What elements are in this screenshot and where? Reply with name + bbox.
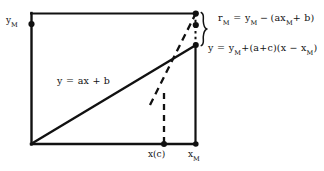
residual-equation-close: + b) <box>293 12 315 23</box>
residual-equation-label: rM=yM−(axM+ b) <box>218 13 314 25</box>
residual-equation-open: (ax <box>271 12 286 23</box>
fit-line-equation-rhs: ax + b <box>78 75 110 86</box>
fit-line-equation-lhs: y <box>57 75 63 86</box>
residual-equation-minus: − <box>260 12 268 23</box>
axis-frame <box>31 13 197 145</box>
diagram-canvas <box>0 0 324 171</box>
tilted-equation-term-subscript: M <box>306 49 313 57</box>
tilted-equation-term: (x − x <box>277 42 307 53</box>
fit-line-equation-operator: = <box>66 75 74 86</box>
residual-equation-operator: = <box>233 12 241 23</box>
y-axis-label-subscript: M <box>11 21 18 29</box>
residual-equation-r-subscript: M <box>223 19 230 27</box>
tilted-line-equation-label: y=yM+(a+c)(x − xM) <box>208 43 317 55</box>
residual-brace <box>201 13 206 46</box>
dot-fitted-value <box>193 22 199 28</box>
marker-dots <box>28 10 199 147</box>
dot-top-right-corner <box>193 10 199 16</box>
dot-ym-on-axis <box>28 21 34 27</box>
tilted-equation-operator: = <box>217 42 225 53</box>
x-tick-label-xm: xM <box>188 150 200 161</box>
dot-xc-tick <box>161 141 167 147</box>
residual-equation-ax-subscript: M <box>286 19 293 27</box>
fit-line-solid <box>31 45 196 144</box>
x-tick-label-xc-text: x(c) <box>148 149 165 159</box>
tilted-equation-slope: (a+c) <box>249 42 276 53</box>
figure-root: yM x(c) xM y=ax + b rM=yM−(axM+ b) y=yM+… <box>0 0 324 171</box>
y-axis-label: yM <box>6 16 18 27</box>
tilted-equation-ym-subscript: M <box>234 49 241 57</box>
tilted-equation-term-close: ) <box>313 42 317 53</box>
fit-line-equation-label: y=ax + b <box>57 76 110 86</box>
x-tick-label-xc: x(c) <box>148 150 165 159</box>
dot-xm-tick <box>193 141 199 147</box>
dot-on-fit-line <box>193 42 199 48</box>
residual-equation-y-subscript: M <box>250 19 257 27</box>
tilted-line-dashed <box>150 13 196 105</box>
x-tick-label-xm-subscript: M <box>193 155 200 163</box>
tilted-equation-y: y <box>208 42 214 53</box>
